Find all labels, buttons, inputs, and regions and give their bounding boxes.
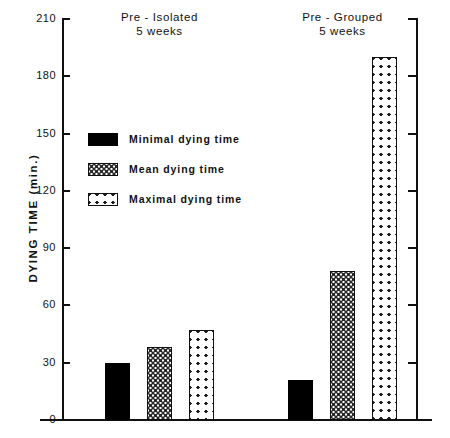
legend-item-minimal: Minimal dying time bbox=[88, 131, 242, 147]
y-tick-left-90 bbox=[62, 247, 70, 249]
legend-swatch-mean-icon bbox=[88, 163, 118, 176]
y-tick-right-150 bbox=[408, 133, 416, 135]
legend-label-minimal: Minimal dying time bbox=[129, 133, 240, 145]
group-title-pre-isolated: Pre - Isolated 5 weeks bbox=[85, 10, 235, 38]
y-axis-right-line bbox=[416, 18, 418, 421]
group-title-pre-grouped: Pre - Grouped 5 weeks bbox=[268, 10, 418, 38]
legend-label-mean: Mean dying time bbox=[129, 163, 225, 175]
y-tick-left-210 bbox=[62, 18, 70, 20]
bar-pre-isolated-solid-black bbox=[105, 363, 130, 420]
y-tick-right-0 bbox=[408, 419, 416, 421]
group-title-line1: Pre - Grouped bbox=[302, 11, 383, 23]
bar-pre-grouped-solid-black bbox=[288, 380, 313, 420]
y-tick-label-30: 30 bbox=[16, 356, 56, 368]
y-tick-label-180: 180 bbox=[16, 69, 56, 81]
y-tick-left-0 bbox=[62, 419, 70, 421]
bar-chart: DYING TIME (min.) 2101801501209060300 Pr… bbox=[0, 0, 450, 438]
group-title-line1: Pre - Isolated bbox=[121, 11, 198, 23]
y-axis-left-line bbox=[62, 18, 64, 421]
bar-pre-grouped-crosshatch bbox=[372, 57, 397, 420]
legend-item-mean: Mean dying time bbox=[88, 161, 242, 177]
bar-pre-grouped-fine-dot bbox=[330, 271, 355, 420]
y-tick-label-90: 90 bbox=[16, 241, 56, 253]
y-tick-left-60 bbox=[62, 304, 70, 306]
y-tick-left-150 bbox=[62, 133, 70, 135]
y-axis-title: DYING TIME (min.) bbox=[27, 123, 39, 313]
legend: Minimal dying time Mean dying time Maxim… bbox=[88, 131, 242, 221]
y-tick-label-210: 210 bbox=[16, 12, 56, 24]
legend-item-maximal: Maximal dying time bbox=[88, 191, 242, 207]
y-tick-label-120: 120 bbox=[16, 184, 56, 196]
legend-label-maximal: Maximal dying time bbox=[129, 193, 242, 205]
y-tick-right-180 bbox=[408, 75, 416, 77]
y-tick-left-180 bbox=[62, 75, 70, 77]
group-title-line2: 5 weeks bbox=[268, 24, 418, 38]
y-tick-right-90 bbox=[408, 247, 416, 249]
y-tick-right-30 bbox=[408, 362, 416, 364]
y-tick-right-120 bbox=[408, 190, 416, 192]
bar-pre-isolated-crosshatch bbox=[189, 330, 214, 420]
legend-swatch-maximal-icon bbox=[88, 193, 118, 206]
bar-pre-isolated-fine-dot bbox=[147, 347, 172, 420]
y-tick-right-60 bbox=[408, 304, 416, 306]
y-tick-label-0: 0 bbox=[16, 413, 56, 425]
legend-swatch-minimal-icon bbox=[88, 133, 118, 146]
y-tick-label-60: 60 bbox=[16, 298, 56, 310]
y-tick-label-150: 150 bbox=[16, 127, 56, 139]
y-tick-left-30 bbox=[62, 362, 70, 364]
y-tick-left-120 bbox=[62, 190, 70, 192]
group-title-line2: 5 weeks bbox=[85, 24, 235, 38]
